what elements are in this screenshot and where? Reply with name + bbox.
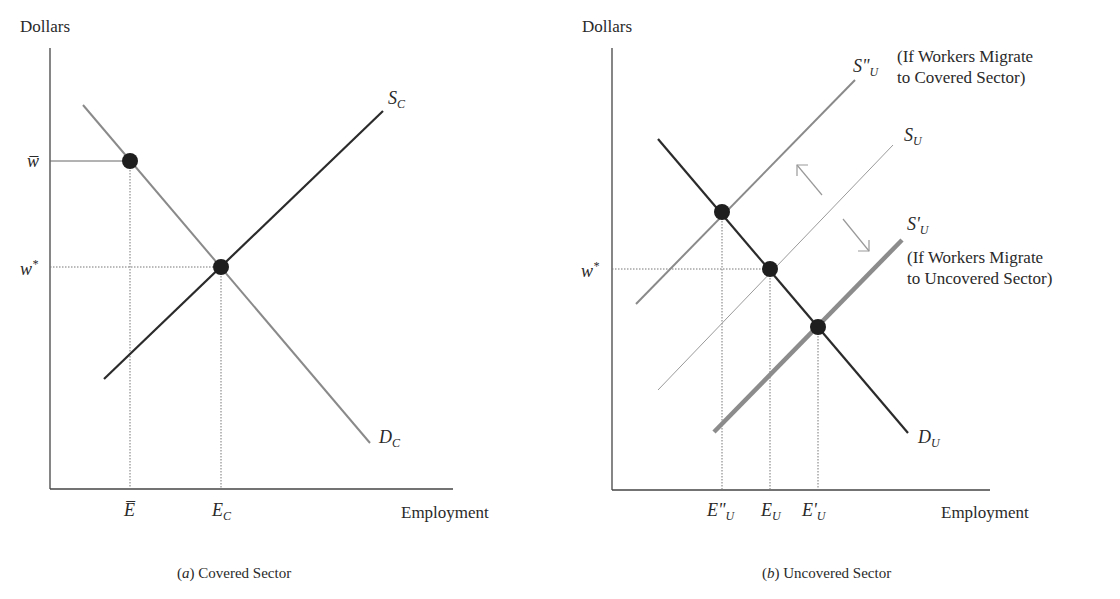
note-uncovered-line2: to Uncovered Sector) <box>907 268 1052 289</box>
du-sub: U <box>931 436 940 450</box>
du-base: D <box>918 427 931 447</box>
su-sub: U <box>913 134 922 148</box>
sp-sub: U <box>920 223 929 237</box>
panel-a-supply-curve <box>104 111 383 379</box>
panel-b-wstar-label: w* <box>581 260 599 280</box>
note-covered-line1: (If Workers Migrate <box>897 46 1033 67</box>
panel-a-ebar-label: E̅ <box>124 501 135 519</box>
panel-b-uncovered-migration-note: (If Workers Migrateto Uncovered Sector) <box>907 247 1052 289</box>
panel-b-supply-label: SU <box>904 126 922 147</box>
panel-b-edprime-label: E"U <box>707 501 734 522</box>
note-uncovered-line1: (If Workers Migrate <box>907 247 1052 268</box>
caption-b-letter: b <box>767 565 775 581</box>
ec-base: E <box>212 500 223 520</box>
su-base: S <box>904 125 913 145</box>
edp-base: E" <box>707 500 726 520</box>
sdp-sub: U <box>870 65 879 79</box>
panel-a-graphics <box>50 48 453 489</box>
wstar-sup: * <box>32 257 38 271</box>
panel-b-point-dprime <box>714 204 730 220</box>
panel-a-y-axis-label: Dollars <box>20 18 70 35</box>
panel-b-demand-curve <box>658 139 908 433</box>
ep-sub: U <box>817 509 826 523</box>
ep-base: E' <box>802 500 817 520</box>
sdp-base: S" <box>853 56 870 76</box>
panel-a-wbar-label: w̅ <box>27 152 39 170</box>
panel-b-y-axis-label: Dollars <box>582 18 632 35</box>
panel-a-x-axis-label: Employment <box>401 504 489 521</box>
panel-a-equilibrium-point <box>213 259 229 275</box>
panel-b-point-eu <box>762 261 778 277</box>
note-covered-line2: to Covered Sector) <box>897 67 1033 88</box>
edp-sub: U <box>726 509 735 523</box>
sc-sub: C <box>397 97 405 111</box>
panel-b-supply-prime-label: S'U <box>907 215 929 236</box>
eu-base: E <box>761 500 772 520</box>
arrow-up-left-icon <box>797 165 822 195</box>
panel-b-eprime-label: E'U <box>802 501 826 522</box>
panel-a-ec-label: EC <box>212 501 231 522</box>
panel-a-supply-label: SC <box>388 89 405 110</box>
panel-b-caption: (b) Uncovered Sector <box>762 566 891 581</box>
caption-b-text: Uncovered Sector <box>780 565 892 581</box>
dc-base: D <box>379 427 392 447</box>
panel-a-wstar-label: w* <box>20 258 38 278</box>
caption-a-letter: a <box>182 565 190 581</box>
panel-b-demand-label: DU <box>918 428 940 449</box>
ec-sub: C <box>223 509 231 523</box>
sc-base: S <box>388 88 397 108</box>
panel-b-eu-label: EU <box>761 501 781 522</box>
sp-base: S' <box>907 214 920 234</box>
panel-a-demand-label: DC <box>379 428 400 449</box>
b-wstar-sup: * <box>593 259 599 273</box>
panel-b-supply-dprime-label: S"U <box>853 57 878 78</box>
panel-b-covered-migration-note: (If Workers Migrateto Covered Sector) <box>897 46 1033 88</box>
panel-a-caption: (a) Covered Sector <box>177 566 291 581</box>
eu-sub: U <box>772 509 781 523</box>
arrow-down-right-icon <box>843 219 869 251</box>
panel-b-point-eprime <box>810 319 826 335</box>
panel-b-x-axis-label: Employment <box>941 504 1029 521</box>
dc-sub: C <box>392 436 400 450</box>
panel-b-supply-dprime-curve <box>636 80 855 304</box>
wstar-base: w <box>20 259 32 279</box>
caption-a-text: Covered Sector <box>195 565 292 581</box>
panel-a-min-wage-point <box>122 153 138 169</box>
b-wstar-base: w <box>581 261 593 281</box>
